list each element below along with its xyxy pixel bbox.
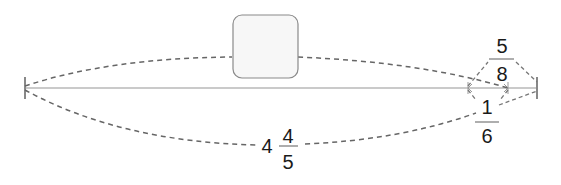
bottom-arc-left (25, 90, 258, 145)
arc-5-8-right (516, 62, 537, 82)
top-arc-left (25, 57, 232, 86)
denominator: 8 (496, 63, 507, 85)
arc-1-6-right (499, 91, 537, 105)
numerator: 1 (481, 96, 492, 118)
bottom-arc-right (305, 113, 476, 144)
numerator: 4 (282, 125, 293, 147)
whole-part: 4 (261, 135, 272, 157)
top-arc-right (298, 57, 508, 88)
numerator: 5 (496, 35, 507, 57)
fraction-1-6: 1 6 (475, 96, 499, 147)
denominator: 6 (481, 125, 492, 147)
fraction-5-8: 5 8 (489, 35, 514, 85)
denominator: 5 (282, 151, 293, 173)
unknown-value-box[interactable] (233, 15, 298, 78)
number-line-diagram: 4 4 5 5 8 1 6 (0, 0, 561, 185)
mixed-number-total: 4 4 5 (261, 125, 298, 173)
